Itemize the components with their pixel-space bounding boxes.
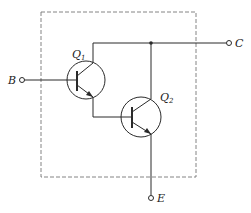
package-boundary: [41, 12, 196, 177]
q1-label: Q1: [72, 48, 86, 62]
darlington-schematic: Q1 Q2 B C E: [0, 0, 251, 213]
emitter-arrow-icon: [144, 128, 151, 134]
emitter-label: E: [156, 192, 165, 205]
q2-label: Q2: [160, 91, 174, 105]
collector-terminal[interactable]: [227, 41, 232, 46]
collector-label: C: [235, 37, 244, 50]
base-terminal[interactable]: [20, 78, 25, 83]
emitter-arrow-icon: [86, 91, 93, 97]
base-label: B: [7, 74, 16, 87]
emitter-terminal[interactable]: [149, 196, 154, 201]
